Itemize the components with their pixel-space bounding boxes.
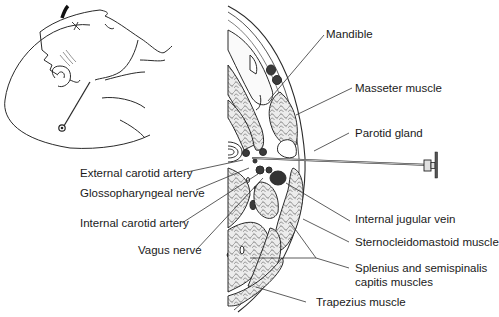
label-glossopharyngeal-nerve: Glossopharyngeal nerve xyxy=(80,187,205,200)
internal-carotid-vessel xyxy=(256,166,264,174)
label-vagus-nerve: Vagus nerve xyxy=(138,244,202,257)
label-mandible: Mandible xyxy=(326,28,373,41)
external-carotid-vessel xyxy=(243,150,250,157)
label-parotid-gland: Parotid gland xyxy=(355,127,423,140)
label-sternocleidomastoid-muscle: Sternocleidomastoid muscle xyxy=(355,236,499,249)
internal-jugular-vessel xyxy=(270,171,286,185)
label-masseter-muscle: Masseter muscle xyxy=(355,82,442,95)
label-splenius-semispinalis-line1: Splenius and semispinalis xyxy=(355,262,487,275)
label-trapezius-muscle: Trapezius muscle xyxy=(316,296,406,309)
inset-needle-icon xyxy=(59,82,91,131)
head-profile-inset xyxy=(5,6,172,148)
label-splenius-semispinalis-line2: capitis muscles xyxy=(355,276,433,289)
label-internal-carotid-artery: Internal carotid artery xyxy=(80,217,189,230)
label-external-carotid-artery: External carotid artery xyxy=(80,167,193,180)
label-internal-jugular-vein: Internal jugular vein xyxy=(355,213,455,226)
